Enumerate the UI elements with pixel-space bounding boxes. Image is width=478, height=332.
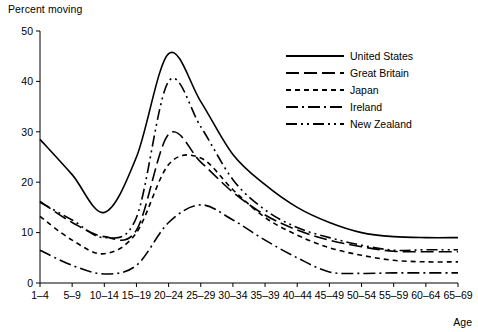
y-tick-label: 20 bbox=[21, 176, 33, 188]
data-series-group bbox=[40, 52, 458, 274]
x-tick-label: 10–14 bbox=[90, 289, 119, 301]
y-tick-label: 30 bbox=[21, 126, 33, 138]
y-tick-label: 50 bbox=[21, 25, 33, 37]
y-tick-label: 40 bbox=[21, 75, 33, 87]
x-tick-label: 55–59 bbox=[379, 289, 408, 301]
legend-label-new-zealand: New Zealand bbox=[350, 118, 412, 130]
y-axis-ticks: 01020304050 bbox=[21, 25, 40, 289]
legend-label-ireland: Ireland bbox=[350, 101, 382, 113]
chart-legend: United StatesGreat BritainJapanIrelandNe… bbox=[286, 50, 413, 130]
series-line-ireland bbox=[40, 205, 458, 274]
x-tick-label: 45–49 bbox=[315, 289, 344, 301]
series-line-great-britain bbox=[40, 132, 458, 252]
x-tick-label: 40–44 bbox=[283, 289, 312, 301]
x-tick-label: 20–24 bbox=[154, 289, 183, 301]
x-axis-title: Age bbox=[453, 316, 472, 328]
x-tick-label: 50–54 bbox=[347, 289, 376, 301]
x-tick-label: 5–9 bbox=[63, 289, 81, 301]
series-line-new-zealand bbox=[40, 78, 458, 250]
y-tick-label: 10 bbox=[21, 226, 33, 238]
x-axis-ticks: 1–45–910–1415–1920–2425–2930–3435–3940–4… bbox=[31, 283, 473, 301]
chart-figure: Percent moving 01020304050 1–45–910–1415… bbox=[0, 0, 478, 332]
y-tick-label: 0 bbox=[27, 277, 33, 289]
x-tick-label: 25–29 bbox=[186, 289, 215, 301]
chart-plot-area: 01020304050 1–45–910–1415–1920–2425–2930… bbox=[0, 0, 478, 332]
x-tick-label: 1–4 bbox=[31, 289, 49, 301]
x-tick-label: 30–34 bbox=[218, 289, 247, 301]
x-tick-label: 60–64 bbox=[411, 289, 440, 301]
legend-label-united-states: United States bbox=[350, 50, 413, 62]
x-tick-label: 65–69 bbox=[443, 289, 472, 301]
series-line-united-states bbox=[40, 52, 458, 237]
legend-label-japan: Japan bbox=[350, 84, 379, 96]
x-tick-label: 15–19 bbox=[122, 289, 151, 301]
x-tick-label: 35–39 bbox=[250, 289, 279, 301]
legend-label-great-britain: Great Britain bbox=[350, 67, 409, 79]
